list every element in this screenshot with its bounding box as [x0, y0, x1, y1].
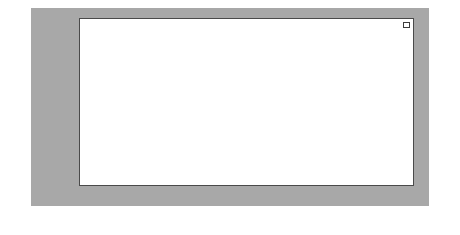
- data-series-layer: [80, 19, 413, 185]
- plot-wrapper: [31, 8, 429, 206]
- figure-panel: [31, 8, 429, 206]
- plot-axes: [79, 18, 414, 186]
- legend-box: [403, 22, 410, 28]
